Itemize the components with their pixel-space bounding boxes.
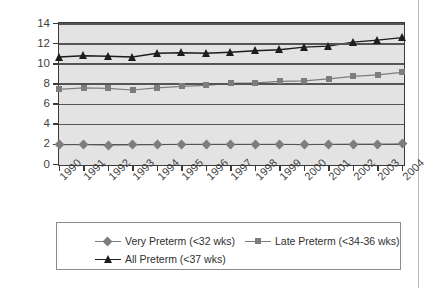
data-point-triangle-2004 [398, 33, 406, 41]
data-point-square-2003 [375, 72, 381, 78]
legend-label: Very Preterm (<32 wks) [125, 235, 235, 247]
y-tick-label-14: 14 [24, 18, 50, 30]
data-point-triangle-1996 [202, 49, 210, 57]
data-point-square-1998 [252, 80, 258, 86]
data-point-square-1999 [277, 78, 283, 84]
data-point-triangle-1990 [55, 53, 63, 61]
page-divider-rule [418, 0, 419, 288]
data-point-triangle-1999 [275, 45, 283, 53]
data-point-triangle-1992 [104, 52, 112, 60]
chart-legend: Very Preterm (<32 wks)Late Preterm (<34-… [56, 222, 401, 270]
data-point-square-2002 [350, 73, 356, 79]
data-point-triangle-1993 [128, 53, 136, 61]
gridline-4 [59, 124, 404, 126]
data-point-square-1992 [105, 85, 111, 91]
gridline-14 [59, 23, 404, 25]
y-tick-label-8: 8 [24, 78, 50, 90]
data-point-triangle-2000 [300, 43, 308, 51]
legend-label: All Preterm (<37 wks) [125, 253, 226, 265]
data-point-square-2004 [399, 69, 405, 75]
y-tick-label-6: 6 [24, 98, 50, 110]
preterm-birth-rate-chart: Percent 02468101214 19901991199219931994… [0, 0, 429, 288]
legend-entry-triangle: All Preterm (<37 wks) [95, 253, 226, 265]
legend-label: Late Preterm (<34-36 wks) [275, 235, 400, 247]
y-tick-label-2: 2 [24, 138, 50, 150]
data-point-square-1991 [81, 85, 87, 91]
data-point-square-1990 [56, 86, 62, 92]
gridline-10 [59, 63, 404, 65]
data-point-triangle-1998 [251, 46, 259, 54]
plot-area [58, 22, 405, 166]
y-tick-label-10: 10 [24, 58, 50, 70]
data-point-triangle-1995 [177, 48, 185, 56]
gridline-6 [59, 104, 404, 106]
legend-entry-diamond: Very Preterm (<32 wks) [95, 235, 235, 247]
data-point-square-1993 [130, 87, 136, 93]
data-point-square-1997 [228, 80, 234, 86]
y-tick-label-0: 0 [24, 159, 50, 171]
data-point-triangle-1994 [153, 49, 161, 57]
data-point-triangle-2003 [373, 36, 381, 44]
y-tick-label-12: 12 [24, 38, 50, 50]
legend-key-triangle-icon [95, 254, 121, 264]
data-point-square-2000 [301, 78, 307, 84]
legend-entry-square: Late Preterm (<34-36 wks) [245, 235, 400, 247]
data-point-triangle-1991 [79, 51, 87, 59]
data-point-square-1994 [154, 85, 160, 91]
data-point-triangle-1997 [226, 48, 234, 56]
data-point-square-1995 [179, 83, 185, 89]
legend-key-diamond-icon [95, 236, 121, 246]
data-point-triangle-2002 [349, 38, 357, 46]
y-tick-label-4: 4 [24, 118, 50, 130]
data-point-square-1996 [203, 82, 209, 88]
legend-key-square-icon [245, 236, 271, 246]
data-point-triangle-2001 [324, 42, 332, 50]
data-point-square-2001 [326, 76, 332, 82]
